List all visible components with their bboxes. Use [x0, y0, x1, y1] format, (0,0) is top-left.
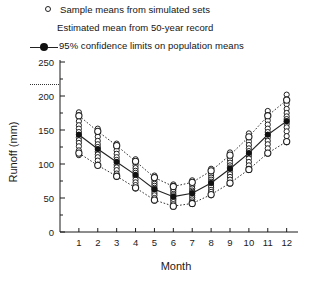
confidence-limit-markers: [76, 97, 290, 209]
y-tick-label: 50: [43, 193, 54, 204]
confidence-limit-marker: [76, 113, 82, 119]
confidence-limit-marker: [246, 134, 252, 140]
estimated-mean-marker: [265, 132, 271, 138]
estimated-mean-marker: [76, 132, 82, 138]
estimated-mean-marker: [208, 180, 214, 186]
x-axis-title: Month: [161, 260, 192, 272]
y-tick-label: 100: [38, 159, 54, 170]
estimated-mean-marker: [227, 166, 233, 172]
confidence-band-lines: [79, 100, 287, 206]
confidence-limit-marker: [227, 180, 233, 186]
confidence-limit-marker: [189, 179, 195, 185]
legend-label-estimated-mean: Estimated mean from 50-year record: [57, 20, 213, 36]
y-tick-label: 0: [49, 227, 54, 238]
x-tick-label: 1: [76, 237, 81, 248]
estimated-mean-marker: [170, 194, 176, 200]
confidence-limit-marker: [284, 97, 290, 103]
open-circle-marker-icon: [45, 6, 51, 12]
chart-legend: Sample means from simulated sets Estimat…: [0, 0, 313, 56]
confidence-limit-marker: [114, 143, 120, 149]
confidence-limit-marker: [170, 183, 176, 189]
x-tick-label: 12: [281, 237, 292, 248]
confidence-limit-marker: [208, 168, 214, 174]
confidence-limit-marker: [246, 166, 252, 172]
confidence-limit-marker: [151, 197, 157, 203]
runoff-confidence-chart: Sample means from simulated sets Estimat…: [0, 0, 313, 286]
confidence-limit-marker: [170, 203, 176, 209]
y-tick-label: 200: [38, 91, 54, 102]
x-tick-label: 2: [95, 237, 100, 248]
dotted-line-icon: [30, 84, 59, 85]
x-tick-label: 11: [263, 237, 273, 248]
estimated-mean-marker: [152, 186, 158, 192]
x-tick-label: 9: [227, 237, 232, 248]
estimated-mean-marker: [284, 118, 290, 124]
x-axis: 123456789101112: [60, 228, 298, 248]
y-axis-title: Runoff (mm): [7, 122, 19, 183]
x-tick-label: 3: [114, 237, 119, 248]
confidence-limit-marker: [114, 173, 120, 179]
estimated-mean-line: [79, 121, 287, 196]
confidence-limit-marker: [265, 113, 271, 119]
confidence-limit-marker: [76, 150, 82, 156]
filled-circle-marker-icon: [40, 43, 48, 51]
confidence-limit-marker: [227, 152, 233, 158]
estimated-mean-marker: [95, 146, 101, 152]
x-tick-label: 5: [152, 237, 157, 248]
confidence-limit-marker: [95, 162, 101, 168]
confidence-limit-marker: [284, 138, 290, 144]
confidence-limit-marker: [151, 175, 157, 181]
confidence-limit-marker: [95, 128, 101, 134]
confidence-limit-marker: [208, 192, 214, 198]
sample-mean-points: [76, 92, 289, 209]
confidence-limit-marker: [265, 150, 271, 156]
estimated-mean-marker: [133, 172, 139, 178]
x-tick-label: 6: [171, 237, 176, 248]
x-tick-label: 4: [133, 237, 138, 248]
y-tick-label: 150: [38, 125, 54, 136]
estimated-mean-marker: [189, 190, 195, 196]
legend-label-sample-means: Sample means from simulated sets: [60, 2, 210, 18]
confidence-limit-marker: [189, 200, 195, 206]
confidence-limit-marker: [132, 158, 138, 164]
legend-label-confidence-limits: 95% confidence limits on population mean…: [59, 38, 244, 54]
x-tick-label: 8: [208, 237, 213, 248]
estimated-mean-marker: [246, 150, 252, 156]
x-tick-label: 10: [244, 237, 255, 248]
y-tick-label: 250: [38, 57, 54, 68]
estimated-mean-marker: [114, 159, 120, 165]
x-tick-label: 7: [190, 237, 195, 248]
estimated-mean-markers: [76, 118, 290, 199]
confidence-limit-marker: [132, 185, 138, 191]
